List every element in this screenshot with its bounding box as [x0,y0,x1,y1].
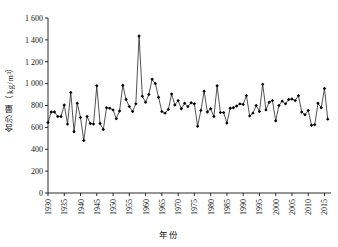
data-point-marker [180,107,183,110]
data-point-marker [170,92,173,95]
data-point-marker [124,98,127,101]
x-tick-label: 1930 [44,199,53,215]
data-point-marker [222,111,225,114]
x-tick-label: 2000 [272,199,281,215]
y-tick-label: 1 400 [25,36,43,45]
data-point-marker [66,122,69,125]
data-point-marker [144,101,147,104]
data-point-marker [108,107,111,110]
data-point-marker [219,111,222,114]
data-point-marker [63,103,66,106]
data-point-marker [310,123,313,126]
data-point-marker [134,102,137,105]
data-point-marker [118,109,121,112]
x-tick-label: 1945 [93,199,102,215]
data-point-marker [225,121,228,124]
data-point-marker [271,99,274,102]
data-point-marker [199,109,202,112]
data-point-marker [232,106,235,109]
data-point-marker [141,95,144,98]
data-point-marker [82,139,85,142]
x-tick-label: 1940 [77,199,86,215]
data-point-marker [98,122,101,125]
data-point-marker [202,90,205,93]
data-point-marker [160,110,163,113]
data-point-marker [245,94,248,97]
y-tick-label: 0 [39,189,43,198]
x-tick-label: 1990 [239,199,248,215]
data-point-marker [228,107,231,110]
data-point-marker [290,97,293,100]
data-point-marker [254,104,257,107]
y-tick-label: 1 000 [25,79,43,88]
data-point-marker [105,106,108,109]
data-point-marker [274,119,277,122]
data-point-marker [196,125,199,128]
data-point-marker [102,128,105,131]
data-point-marker [46,121,49,124]
data-point-marker [89,122,92,125]
data-point-marker [92,122,95,125]
data-point-marker [215,84,218,87]
data-point-marker [115,117,118,120]
y-axis-title: 含沙量（kg/m³） [4,62,16,132]
data-point-marker [261,82,264,85]
data-point-marker [137,34,140,37]
x-tick-label: 2015 [320,199,329,215]
x-tick-label: 1960 [142,199,151,215]
y-axis-ticks: 02004006008001 0001 2001 4001 600 [25,14,48,198]
data-point-marker [59,115,62,118]
data-point-marker [326,117,329,120]
sediment-concentration-chart: 含沙量（kg/m³） 02004006008001 0001 2001 4001… [0,0,338,247]
data-point-markers [46,34,329,142]
x-tick-label: 2010 [304,199,313,215]
data-point-marker [313,123,316,126]
data-point-marker [69,91,72,94]
y-tick-label: 1 200 [25,58,43,67]
y-tick-label: 1 600 [25,14,43,23]
data-point-marker [76,102,79,105]
data-point-marker [193,102,196,105]
data-point-marker [157,96,160,99]
x-tick-label: 2005 [288,199,297,215]
x-axis-title: 年份 [0,228,338,240]
x-tick-label: 1935 [60,199,69,215]
data-point-marker [95,84,98,87]
data-point-marker [50,110,53,113]
data-point-marker [111,108,114,111]
data-point-marker [72,130,75,133]
x-axis-ticks: 1930193519401945195019551960196519701975… [44,193,329,215]
data-point-marker [241,103,244,106]
x-tick-label: 1995 [255,199,264,215]
x-tick-label: 1955 [125,199,134,215]
chart-plot-area: 02004006008001 0001 2001 4001 600 193019… [0,0,338,247]
x-tick-label: 1975 [190,199,199,215]
data-point-marker [212,115,215,118]
y-axis-title-wrap: 含沙量（kg/m³） [2,0,18,195]
x-tick-label: 1980 [207,199,216,215]
data-point-marker [85,115,88,118]
x-tick-label: 1985 [223,199,232,215]
y-tick-label: 800 [31,101,43,110]
data-point-marker [323,87,326,90]
data-point-marker [267,101,270,104]
x-tick-label: 1950 [109,199,118,215]
data-point-marker [79,116,82,119]
data-point-marker [147,93,150,96]
data-point-marker [264,108,267,111]
data-point-marker [258,110,261,113]
y-tick-label: 400 [31,145,43,154]
x-tick-label: 1965 [158,199,167,215]
data-point-marker [121,84,124,87]
x-tick-label: 1970 [174,199,183,215]
y-tick-label: 200 [31,167,43,176]
y-tick-label: 600 [31,123,43,132]
axis-lines [48,18,331,193]
